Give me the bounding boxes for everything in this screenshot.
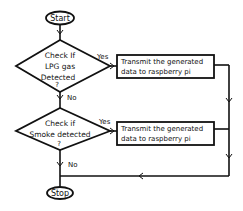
decision-smoke-no-label: No	[68, 161, 78, 169]
decision-lpg-yes-label: Yes	[96, 53, 109, 61]
process-2-line1: Transmit the generated	[120, 125, 203, 133]
process-1-line2: data to raspberry pi	[121, 68, 191, 76]
decision-smoke-line3: ?	[57, 140, 61, 148]
decision-smoke-line2: Smoke detected	[29, 130, 90, 139]
decision-smoke-yes-label: Yes	[98, 118, 111, 126]
decision-smoke-line1: Check if	[45, 119, 76, 128]
stop-terminal: Stop	[47, 187, 73, 199]
process-transmit-2: Transmit the generated data to raspberry…	[117, 122, 214, 145]
process-transmit-1: Transmit the generated data to raspberry…	[117, 55, 214, 78]
decision-smoke: Check if Smoke detected ?	[16, 108, 110, 150]
process-1-line1: Transmit the generated	[120, 58, 203, 66]
decision-lpg-line2: LPG gas	[45, 62, 75, 71]
decision-lpg-no-label: No	[67, 94, 77, 102]
process-2-line2: data to raspberry pi	[121, 135, 191, 143]
decision-lpg-line4: ?	[55, 81, 59, 89]
decision-lpg-line1: Check If	[45, 51, 76, 60]
flowchart: Start Check If LPG gas Detected ? Yes No…	[0, 0, 243, 211]
start-label: Start	[50, 14, 70, 23]
decision-lpg: Check If LPG gas Detected ?	[16, 40, 110, 92]
stop-label: Stop	[51, 189, 69, 198]
start-terminal: Start	[46, 12, 74, 25]
